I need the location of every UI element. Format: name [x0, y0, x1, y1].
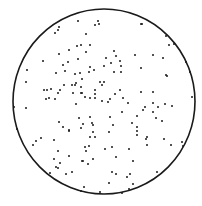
data-point	[146, 136, 148, 138]
data-point	[191, 96, 193, 98]
data-point	[121, 192, 123, 194]
data-point	[57, 92, 59, 94]
data-point	[136, 134, 138, 136]
data-point	[80, 127, 82, 129]
data-point	[119, 89, 121, 91]
data-point	[89, 136, 91, 138]
data-point	[65, 173, 67, 175]
data-point	[182, 145, 184, 147]
data-point	[64, 70, 66, 72]
data-point	[141, 23, 143, 25]
data-point	[111, 146, 113, 148]
data-point	[85, 33, 87, 35]
data-point	[71, 171, 73, 173]
data-point	[48, 97, 50, 99]
data-point	[128, 188, 130, 190]
data-point	[89, 97, 91, 99]
data-point	[62, 126, 64, 128]
data-point	[57, 29, 59, 31]
data-point	[76, 45, 78, 47]
data-point	[134, 54, 136, 56]
data-point	[25, 107, 27, 109]
data-point	[189, 71, 191, 73]
data-point	[161, 120, 163, 122]
data-point	[50, 88, 52, 90]
data-point	[13, 106, 15, 108]
data-point	[77, 20, 79, 22]
data-point	[80, 190, 82, 192]
data-point	[25, 81, 27, 83]
data-point	[82, 160, 84, 162]
data-point	[85, 150, 87, 152]
data-point	[78, 117, 80, 119]
data-point	[59, 89, 61, 91]
data-point	[98, 23, 100, 25]
data-point	[120, 65, 122, 67]
data-point	[77, 58, 79, 60]
data-point	[136, 130, 138, 132]
data-point	[115, 156, 117, 158]
data-point	[82, 123, 84, 125]
data-point	[58, 53, 60, 55]
data-point	[40, 137, 42, 139]
data-point	[91, 122, 93, 124]
data-point	[140, 91, 142, 93]
data-point	[110, 62, 112, 64]
data-point	[119, 60, 121, 62]
circular-boundary	[13, 9, 195, 194]
data-point	[181, 141, 183, 143]
data-point	[80, 44, 82, 46]
data-point	[94, 24, 96, 26]
data-point	[171, 105, 173, 107]
data-point	[54, 98, 56, 100]
data-point	[129, 173, 131, 175]
data-point	[68, 155, 70, 157]
data-point	[101, 100, 103, 102]
data-point	[136, 126, 138, 128]
data-point	[68, 130, 70, 132]
data-point	[108, 131, 110, 133]
data-point	[173, 43, 175, 45]
data-point	[26, 69, 28, 71]
data-point	[157, 106, 159, 108]
data-point	[93, 69, 95, 71]
data-point	[58, 26, 60, 28]
data-point	[16, 128, 18, 130]
data-point	[152, 111, 154, 113]
data-point	[103, 65, 105, 67]
data-point	[122, 97, 124, 99]
data-point	[107, 101, 109, 103]
data-point	[152, 102, 154, 104]
data-point	[84, 146, 86, 148]
data-point	[53, 158, 55, 160]
data-point	[108, 182, 110, 184]
data-point	[55, 166, 57, 168]
data-point	[115, 55, 117, 57]
data-point	[163, 138, 165, 140]
data-point	[127, 102, 129, 104]
data-point	[59, 162, 61, 164]
data-point	[75, 82, 77, 84]
data-point	[170, 144, 172, 146]
data-point	[109, 116, 111, 118]
data-point	[185, 61, 187, 63]
data-point	[144, 106, 146, 108]
data-point	[42, 60, 44, 62]
data-point	[104, 148, 106, 150]
data-point	[164, 103, 166, 105]
data-point	[43, 89, 45, 91]
data-point	[120, 71, 122, 73]
data-point	[81, 78, 83, 80]
data-point	[103, 81, 105, 83]
data-point	[156, 171, 158, 173]
data-point	[99, 81, 101, 83]
data-point	[63, 84, 65, 86]
data-point	[132, 183, 134, 185]
data-point	[101, 84, 103, 86]
data-point	[74, 84, 76, 86]
data-point	[71, 84, 73, 86]
data-point	[89, 66, 91, 68]
data-point	[57, 167, 59, 169]
data-point	[62, 64, 64, 66]
data-point	[111, 171, 113, 173]
